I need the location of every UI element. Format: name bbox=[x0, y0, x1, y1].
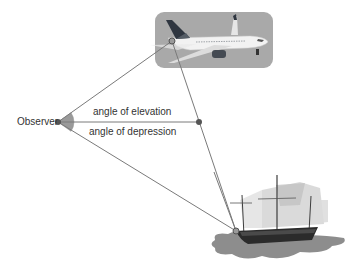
airplane-icon bbox=[150, 12, 273, 68]
angle-of-depression-label: angle of depression bbox=[89, 126, 176, 138]
horizontal-point bbox=[196, 119, 202, 125]
vertical-line bbox=[172, 41, 236, 231]
observer-label: Observer bbox=[17, 116, 58, 128]
angle-of-elevation-label: angle of elevation bbox=[93, 106, 171, 118]
ship-point bbox=[233, 228, 239, 234]
ship-icon bbox=[212, 172, 345, 259]
plane-point bbox=[169, 38, 175, 44]
line-of-sight-depression bbox=[58, 122, 236, 231]
diagram-canvas bbox=[0, 0, 361, 276]
